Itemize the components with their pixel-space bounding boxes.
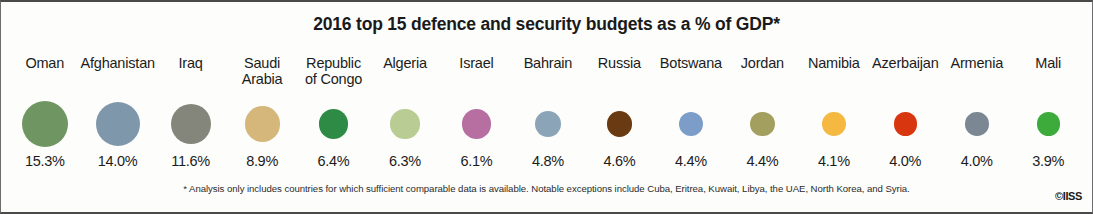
chart-item: Mali3.9%: [1012, 56, 1083, 174]
value-bubble: [96, 102, 140, 146]
bubble-slot: [298, 98, 369, 150]
value-label: 3.9%: [1012, 153, 1083, 169]
bubble-slot: [369, 98, 440, 150]
bubble-slot: [512, 98, 583, 150]
country-label: Israel: [459, 56, 493, 72]
value-label: 15.3%: [9, 153, 80, 169]
bubble-slot: [155, 98, 226, 150]
value-bubble: [1037, 112, 1060, 135]
chart-item: Israel6.1%: [441, 56, 512, 174]
chart-item: Russia4.6%: [584, 56, 655, 174]
bubble-slot: [1012, 98, 1083, 150]
country-label: Afghanistan: [80, 56, 154, 72]
value-label: 6.1%: [441, 153, 512, 169]
value-label: 8.9%: [226, 153, 297, 169]
value-bubble: [822, 112, 846, 136]
country-label: Namibia: [808, 56, 860, 72]
chart-item: Iraq11.6%: [155, 56, 226, 174]
country-label: Saudi Arabia: [242, 56, 283, 87]
country-label: Mali: [1035, 56, 1061, 72]
value-bubble: [245, 106, 280, 141]
chart-item: Oman15.3%: [9, 56, 80, 174]
country-label: Jordan: [741, 56, 784, 72]
country-label: Armenia: [950, 56, 1003, 72]
chart-item: Bahrain4.8%: [512, 56, 583, 174]
chart-item: Saudi Arabia8.9%: [226, 56, 297, 174]
value-bubble: [750, 112, 775, 137]
chart-item: Algeria6.3%: [369, 56, 440, 174]
country-label: Azerbaijan: [872, 56, 939, 72]
chart-item: Republic of Congo6.4%: [298, 56, 369, 174]
chart-item: Afghanistan14.0%: [80, 56, 154, 174]
bubble-slot: [941, 98, 1012, 150]
value-label: 6.3%: [369, 153, 440, 169]
bubble-slot: [80, 98, 154, 150]
bubble-slot: [584, 98, 655, 150]
chart-footnote: * Analysis only includes countries for w…: [1, 183, 1092, 194]
chart-item: Jordan4.4%: [727, 56, 798, 174]
value-bubble: [965, 112, 989, 136]
chart-item: Azerbaijan4.0%: [870, 56, 941, 174]
value-bubble: [22, 101, 68, 147]
value-bubble: [607, 111, 632, 136]
value-bubble: [390, 109, 420, 139]
value-label: 11.6%: [155, 153, 226, 169]
country-label: Oman: [25, 56, 64, 72]
bubble-slot: [9, 98, 80, 150]
bubble-slot: [798, 98, 869, 150]
chart-item: Namibia4.1%: [798, 56, 869, 174]
bubble-slot: [655, 98, 726, 150]
bubble-slot: [441, 98, 512, 150]
country-label: Russia: [598, 56, 641, 72]
value-label: 14.0%: [80, 153, 154, 169]
value-bubble: [462, 109, 491, 138]
value-bubble: [894, 112, 918, 136]
chart-item: Botswana4.4%: [655, 56, 726, 174]
value-label: 4.8%: [512, 153, 583, 169]
value-bubble: [319, 109, 349, 139]
bubble-slot: [727, 98, 798, 150]
value-bubble: [535, 111, 561, 137]
country-label: Botswana: [660, 56, 722, 72]
bubble-chart-plot: Oman15.3%Afghanistan14.0%Iraq11.6%Saudi …: [9, 56, 1084, 174]
value-label: 4.4%: [727, 153, 798, 169]
country-label: Republic of Congo: [305, 56, 362, 87]
value-label: 4.6%: [584, 153, 655, 169]
value-label: 4.0%: [870, 153, 941, 169]
country-label: Algeria: [383, 56, 427, 72]
chart-figure: 2016 top 15 defence and security budgets…: [0, 0, 1093, 214]
value-label: 4.1%: [798, 153, 869, 169]
bubble-slot: [870, 98, 941, 150]
iiss-copyright-credit: ©IISS: [1055, 190, 1082, 202]
chart-item: Armenia4.0%: [941, 56, 1012, 174]
value-label: 4.0%: [941, 153, 1012, 169]
value-label: 6.4%: [298, 153, 369, 169]
bubble-slot: [226, 98, 297, 150]
country-label: Iraq: [179, 56, 203, 72]
value-bubble: [171, 104, 211, 144]
value-label: 4.4%: [655, 153, 726, 169]
page-title: 2016 top 15 defence and security budgets…: [1, 14, 1092, 35]
country-label: Bahrain: [524, 56, 573, 72]
value-bubble: [679, 112, 704, 137]
